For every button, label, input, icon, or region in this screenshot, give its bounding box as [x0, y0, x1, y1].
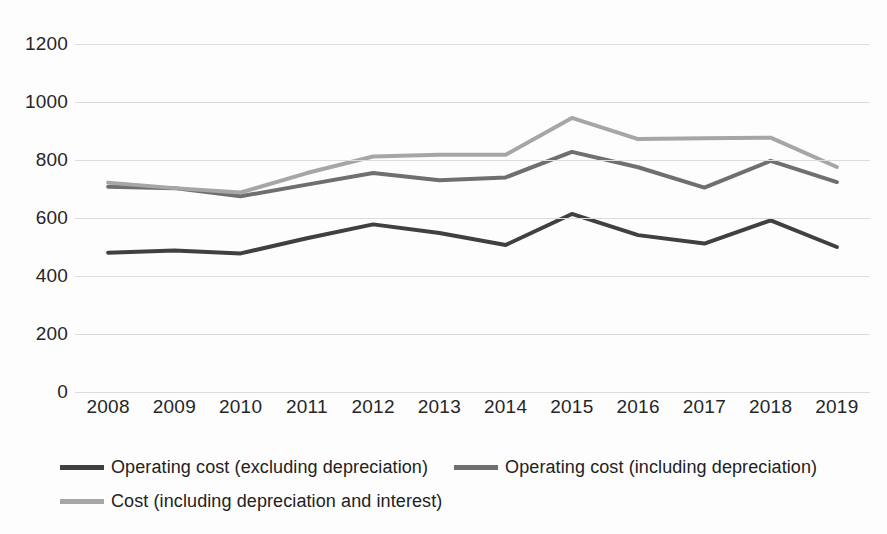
y-tick-label: 1200 [8, 33, 68, 55]
line-chart: 020040060080010001200 200820092010201120… [0, 0, 887, 534]
gridline [75, 44, 870, 45]
gridline [75, 102, 870, 103]
y-tick-label: 200 [8, 323, 68, 345]
x-tick-label: 2012 [352, 396, 395, 418]
gridline [75, 392, 870, 393]
gridline [75, 276, 870, 277]
x-tick-label: 2014 [484, 396, 527, 418]
x-tick-label: 2015 [550, 396, 593, 418]
x-tick-label: 2018 [749, 396, 792, 418]
x-tick-label: 2019 [815, 396, 858, 418]
legend-swatch-icon [60, 465, 104, 470]
x-tick-label: 2009 [153, 396, 196, 418]
legend-label: Operating cost (including depreciation) [505, 457, 817, 478]
gridline [75, 218, 870, 219]
x-tick-label: 2011 [286, 396, 328, 418]
gridline [75, 160, 870, 161]
legend-label: Cost (including depreciation and interes… [111, 491, 442, 512]
x-tick-label: 2013 [418, 396, 461, 418]
legend-label: Operating cost (excluding depreciation) [111, 457, 428, 478]
x-tick-label: 2008 [87, 396, 130, 418]
x-axis: 2008200920102011201220132014201520162017… [75, 396, 870, 426]
legend-swatch-icon [454, 465, 498, 470]
x-tick-label: 2010 [219, 396, 262, 418]
y-tick-label: 1000 [8, 91, 68, 113]
y-axis: 020040060080010001200 [0, 44, 68, 392]
series-line-3 [108, 118, 837, 193]
legend-swatch-icon [60, 499, 104, 504]
x-tick-label: 2017 [683, 396, 726, 418]
legend-item[interactable]: Operating cost (including depreciation) [454, 450, 817, 484]
y-tick-label: 0 [8, 381, 68, 403]
series-line-1 [108, 214, 837, 253]
legend-item[interactable]: Operating cost (excluding depreciation) [60, 450, 428, 484]
y-tick-label: 600 [8, 207, 68, 229]
gridline [75, 334, 870, 335]
plot-area [75, 44, 870, 392]
y-tick-label: 800 [8, 149, 68, 171]
legend-item[interactable]: Cost (including depreciation and interes… [60, 484, 442, 518]
chart-legend: Operating cost (excluding depreciation)O… [60, 450, 870, 518]
x-tick-label: 2016 [617, 396, 660, 418]
y-tick-label: 400 [8, 265, 68, 287]
